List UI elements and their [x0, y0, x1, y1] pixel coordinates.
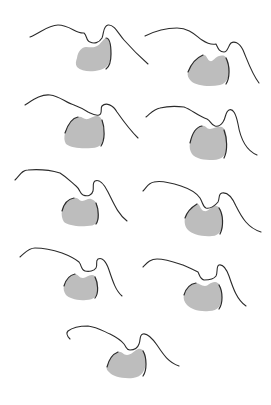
panel-6 — [143, 181, 261, 236]
gray-blob-shape — [64, 116, 104, 149]
figure-panel-grid — [0, 0, 271, 405]
panel-5 — [15, 170, 127, 227]
gray-blob-shape — [107, 349, 146, 378]
panel-2 — [145, 28, 259, 86]
panel-8 — [143, 259, 246, 311]
panel-4 — [146, 106, 257, 160]
diagram-canvas — [0, 0, 271, 405]
panel-3 — [25, 95, 138, 148]
gray-blob-shape — [188, 55, 230, 86]
panel-7 — [20, 248, 122, 300]
panel-1 — [30, 25, 148, 71]
gray-blob-shape — [62, 198, 99, 226]
panel-9 — [67, 326, 179, 378]
